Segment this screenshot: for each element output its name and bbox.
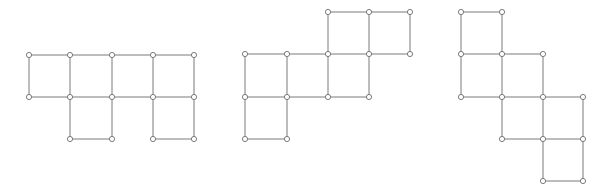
vertex-node (191, 52, 196, 57)
vertex-node (540, 136, 545, 141)
vertex-node (26, 94, 31, 99)
vertex-node (242, 94, 247, 99)
vertex-node (67, 136, 72, 141)
vertex-node (540, 51, 545, 56)
vertex-node (191, 94, 196, 99)
vertex-node (284, 51, 289, 56)
vertex-node (284, 94, 289, 99)
vertex-node (284, 136, 289, 141)
vertex-node (67, 94, 72, 99)
vertex-node (109, 136, 114, 141)
vertex-node (109, 52, 114, 57)
vertex-node (242, 51, 247, 56)
vertex-node (499, 136, 504, 141)
vertex-node (109, 94, 114, 99)
vertex-node (458, 94, 463, 99)
cube-net-3 (458, 9, 585, 183)
vertex-node (26, 52, 31, 57)
vertex-node (366, 9, 371, 14)
vertex-node (150, 52, 155, 57)
vertex-node (458, 51, 463, 56)
vertex-node (407, 51, 412, 56)
vertex-node (407, 9, 412, 14)
vertex-node (325, 51, 330, 56)
vertex-node (150, 94, 155, 99)
vertex-node (580, 94, 585, 99)
vertex-node (325, 94, 330, 99)
vertex-node (499, 51, 504, 56)
vertex-node (242, 136, 247, 141)
cube-net-1 (26, 52, 196, 141)
cube-net-2 (242, 9, 412, 141)
vertex-node (580, 136, 585, 141)
vertex-node (366, 94, 371, 99)
vertex-node (67, 52, 72, 57)
vertex-node (191, 136, 196, 141)
vertex-node (580, 178, 585, 183)
vertex-node (540, 178, 545, 183)
vertex-node (325, 9, 330, 14)
vertex-node (499, 9, 504, 14)
vertex-node (150, 136, 155, 141)
vertex-node (458, 9, 463, 14)
cube-nets-diagram (0, 0, 611, 195)
vertex-node (499, 94, 504, 99)
vertex-node (366, 51, 371, 56)
vertex-node (540, 94, 545, 99)
